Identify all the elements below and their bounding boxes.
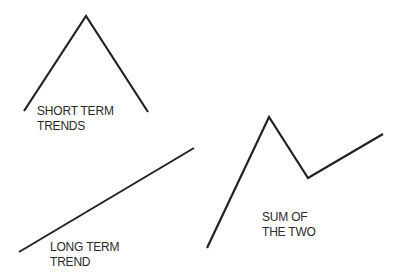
short-term-label: SHORT TERM TRENDS [37, 104, 114, 134]
trend-diagram [0, 0, 398, 278]
long-term-trend-line [19, 148, 194, 252]
short-term-label-line-1: SHORT TERM [37, 104, 114, 119]
long-term-label-line-1: LONG TERM [50, 240, 119, 255]
long-term-label: LONG TERM TREND [50, 240, 119, 270]
short-term-trend-line [24, 16, 148, 112]
short-term-label-line-2: TRENDS [37, 119, 114, 134]
long-term-label-line-2: TREND [50, 255, 119, 270]
sum-label-line-2: THE TWO [262, 225, 316, 240]
sum-label: SUM OF THE TWO [262, 210, 316, 240]
sum-label-line-1: SUM OF [262, 210, 316, 225]
